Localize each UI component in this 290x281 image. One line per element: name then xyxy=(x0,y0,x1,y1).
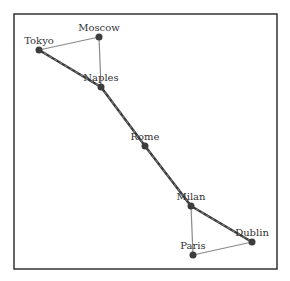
node-dot xyxy=(249,239,256,246)
node-dot xyxy=(190,252,197,259)
node-dot xyxy=(36,47,43,54)
node-dot xyxy=(98,84,105,91)
node-label: Dublin xyxy=(235,227,269,238)
graph-canvas: TokyoMoscowNaplesRomeMilanDublinParis xyxy=(0,0,290,281)
node-label: Naples xyxy=(83,72,118,83)
node-label: Tokyo xyxy=(24,35,54,46)
node-dot xyxy=(188,203,195,210)
node-label: Rome xyxy=(131,131,160,142)
node-label: Milan xyxy=(176,191,206,202)
node-dot xyxy=(142,143,149,150)
node-label: Moscow xyxy=(78,22,120,33)
node-label: Paris xyxy=(180,240,205,251)
node-dot xyxy=(96,34,103,41)
